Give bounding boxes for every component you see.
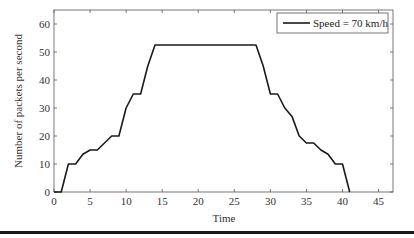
y-tick-label: 30 [39, 102, 51, 114]
y-tick-label: 20 [39, 130, 51, 142]
x-tick-label: 10 [121, 195, 133, 207]
x-tick-label: 45 [373, 195, 385, 207]
series-layer [54, 45, 350, 192]
legend-label: Speed = 70 km/h [313, 17, 388, 29]
x-tick-label: 25 [229, 195, 241, 207]
x-tick-label: 40 [337, 195, 349, 207]
x-axis-title: Time [213, 212, 236, 224]
x-tick-label: 30 [265, 195, 277, 207]
bottom-rule [0, 231, 414, 234]
x-tick-label: 35 [301, 195, 313, 207]
y-tick-label: 10 [39, 158, 51, 170]
x-tick-label: 15 [157, 195, 169, 207]
x-tick-label: 20 [193, 195, 205, 207]
y-tick-label: 50 [39, 46, 51, 58]
y-tick-label: 0 [45, 186, 51, 198]
y-axis-title: Number of packets per second [12, 34, 24, 168]
series-line [54, 45, 350, 192]
x-tick-label: 5 [87, 195, 93, 207]
y-tick-label: 40 [39, 74, 51, 86]
line-chart: 0102030405060 051015202530354045 Number … [0, 0, 414, 238]
y-tick-label: 60 [39, 18, 51, 30]
legend: Speed = 70 km/h [277, 13, 388, 33]
x-tick-label: 0 [51, 195, 57, 207]
x-axis-ticks: 051015202530354045 [51, 10, 384, 207]
